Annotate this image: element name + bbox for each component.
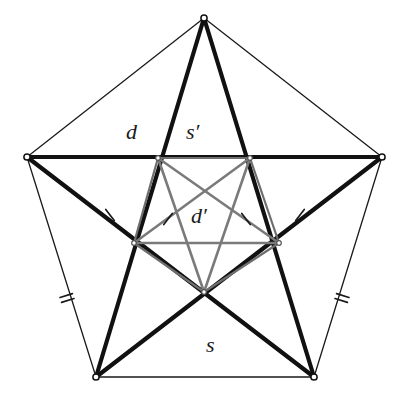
pentagon-edge-right-bottomright: [314, 157, 382, 377]
label-s-prime: s′: [186, 121, 199, 143]
vertex-dot-top: [201, 15, 207, 21]
vertex-dot-inner-top-left: [156, 156, 161, 161]
vertex-dot-inner-left: [132, 241, 137, 246]
vertex-dot-inner-top-right: [248, 156, 253, 161]
figure-canvas: d s′ d′ s: [0, 0, 405, 398]
vertex-dot-bottom-right: [311, 374, 317, 380]
pentagon-pentagram-diagram: [0, 0, 405, 398]
inner-edge-left-topleft: [134, 158, 158, 243]
vertex-dot-inner-right: [277, 241, 282, 246]
inner-diagonal-topright-left: [134, 158, 250, 243]
inner-edge-right-bottom: [204, 243, 279, 292]
diagonal-top-bottomright: [204, 18, 314, 377]
pentagon-edge-top-right: [204, 18, 382, 157]
pentagon-edge-left-top: [27, 18, 204, 157]
diagonal-top-bottomleft: [96, 18, 204, 377]
inner-edge-topright-right: [250, 158, 279, 243]
inner-diagonal-topright-bottom: [204, 158, 250, 292]
label-d-prime: d′: [191, 205, 207, 227]
label-s: s: [206, 334, 215, 356]
inner-edge-bottom-left: [134, 243, 204, 292]
vertex-dot-inner-bottom: [202, 290, 207, 295]
vertex-dot-right: [379, 154, 385, 160]
label-d: d: [126, 121, 137, 143]
vertex-dot-bottom-left: [93, 374, 99, 380]
pentagon-edge-bottomleft-left: [27, 157, 96, 377]
outer-pentagon-diagonals: [27, 18, 382, 377]
vertex-dot-left: [24, 154, 30, 160]
diagonal-left-bottomright: [27, 157, 314, 377]
